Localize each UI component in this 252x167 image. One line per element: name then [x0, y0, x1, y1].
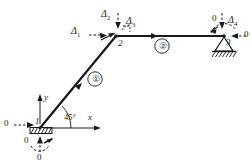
- x-axis-arrowhead: [94, 125, 101, 130]
- node-1-label: 1: [35, 117, 40, 126]
- node-3-rotation-dof-label: Δ4: [228, 15, 237, 28]
- node-1-support: [30, 126, 52, 133]
- node-2-vertical-dof-label: Δ2: [101, 9, 110, 22]
- node-1-vertical-dof-arrow: [37, 136, 43, 152]
- node-2-horizontal-dof-label: Δ1: [71, 26, 80, 39]
- node-3-horizontal-dof-label: 0: [244, 30, 249, 39]
- member-1-diagonal: [40, 36, 116, 128]
- node-3-vertical-dof-label: 0: [212, 14, 217, 23]
- angle-45-label: 45°: [64, 113, 76, 122]
- figure-canvas: 1 2 3 ① ② 0 0 0 Δ1 Δ2 Δ3 0 Δ4 0 y x 45°: [0, 0, 252, 167]
- node-3-label: 3: [226, 38, 231, 47]
- node-3-support: [212, 34, 237, 57]
- y-axis-label: y: [44, 93, 48, 102]
- node-1-rotation-dof-arc: [31, 138, 54, 151]
- node-1-vertical-dof-label: 0: [37, 153, 42, 162]
- member-2-label: ②: [159, 42, 167, 51]
- node-2-rotation-dof-label: Δ3: [126, 16, 135, 29]
- member-2-direction-arrow: [151, 33, 158, 39]
- member-1-label: ①: [92, 75, 100, 84]
- y-axis-arrowhead: [37, 94, 42, 101]
- x-axis-label: x: [88, 113, 92, 122]
- member-2-horizontal: [116, 33, 224, 39]
- node-1-horizontal-dof-label: 0: [4, 119, 9, 128]
- node-2-label: 2: [118, 39, 123, 48]
- node-1-rotation-dof-label: 0: [24, 136, 29, 145]
